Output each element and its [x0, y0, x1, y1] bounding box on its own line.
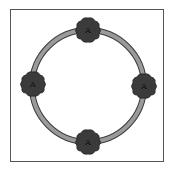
node-label: A	[140, 82, 147, 91]
node-right: A	[132, 74, 157, 98]
node-label: A	[84, 138, 91, 147]
ring-diagram: A A A A	[0, 0, 196, 169]
node-top: A	[76, 18, 101, 42]
node-left: A	[21, 72, 46, 96]
ring	[32, 30, 144, 142]
node-bottom: A	[76, 130, 101, 154]
node-label: A	[29, 80, 36, 89]
node-label: A	[84, 26, 91, 35]
